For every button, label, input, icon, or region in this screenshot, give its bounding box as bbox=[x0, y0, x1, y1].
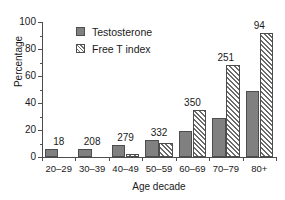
x-tick-label: 50–59 bbox=[146, 163, 172, 174]
bar bbox=[179, 131, 193, 157]
group-sample-size-label: 18 bbox=[53, 136, 64, 147]
y-tick-label: 40 bbox=[14, 98, 36, 108]
bar bbox=[193, 110, 207, 157]
x-tick-label: 30–39 bbox=[79, 163, 105, 174]
bar bbox=[145, 140, 159, 157]
bar bbox=[112, 145, 126, 157]
legend-label-testosterone: Testosterone bbox=[92, 26, 152, 38]
y-tick-label: 100 bbox=[14, 17, 36, 27]
x-tick-label: 60–69 bbox=[179, 163, 205, 174]
legend-swatch-hatched-icon bbox=[76, 44, 85, 53]
y-tick-label: 0 bbox=[14, 152, 36, 162]
legend-item-testosterone: Testosterone bbox=[76, 23, 152, 40]
x-tick bbox=[209, 157, 210, 161]
bar-chart: Percentage 020406080100 20–2930–3940–495… bbox=[0, 0, 285, 200]
bar bbox=[260, 33, 274, 157]
group-sample-size-label: 208 bbox=[84, 136, 101, 147]
x-tick bbox=[142, 157, 143, 161]
y-tick-label: 80 bbox=[14, 44, 36, 54]
x-axis-title: Age decade bbox=[42, 181, 276, 192]
bar bbox=[226, 65, 240, 157]
group-sample-size-label: 251 bbox=[218, 52, 235, 63]
x-tick bbox=[276, 157, 277, 161]
legend-swatch-solid-icon bbox=[76, 27, 85, 36]
legend-label-free-t-index: Free T index bbox=[92, 43, 151, 55]
x-tick bbox=[176, 157, 177, 161]
legend-item-free-t-index: Free T index bbox=[76, 40, 152, 57]
x-tick-label: 80+ bbox=[251, 163, 267, 174]
y-tick-label: 60 bbox=[14, 71, 36, 81]
bar bbox=[212, 118, 226, 157]
bar bbox=[159, 143, 173, 157]
x-tick bbox=[243, 157, 244, 161]
x-tick bbox=[42, 157, 43, 161]
group-sample-size-label: 279 bbox=[117, 132, 134, 143]
group-sample-size-label: 332 bbox=[151, 127, 168, 138]
x-tick-label: 20–29 bbox=[45, 163, 71, 174]
bar bbox=[78, 149, 92, 157]
group-sample-size-label: 350 bbox=[184, 97, 201, 108]
bar bbox=[246, 91, 260, 157]
bar bbox=[126, 154, 140, 157]
x-tick bbox=[109, 157, 110, 161]
chart-legend: Testosterone Free T index bbox=[76, 23, 152, 57]
group-sample-size-label: 94 bbox=[254, 20, 265, 31]
x-tick-label: 70–79 bbox=[213, 163, 239, 174]
x-tick bbox=[75, 157, 76, 161]
y-tick-label: 20 bbox=[14, 125, 36, 135]
x-tick-label: 40–49 bbox=[112, 163, 138, 174]
bar bbox=[45, 149, 59, 157]
